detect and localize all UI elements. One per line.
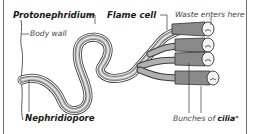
tubule <box>22 30 180 111</box>
flame-cell-3 <box>175 52 214 66</box>
flame-cell-2 <box>175 38 214 52</box>
label-cilia-suffix: * <box>235 114 239 123</box>
label-protonephridium: Protonephridium <box>13 10 95 20</box>
label-cilia-prefix: Bunches of <box>173 114 218 123</box>
label-cilia-bold: cilia <box>218 114 235 123</box>
flame-cells <box>172 22 219 85</box>
label-waste-enters: Waste enters here <box>175 10 245 20</box>
body-wall-line <box>21 20 23 120</box>
label-nephridiopore: Nephridiopore <box>25 113 95 123</box>
flame-cell-1 <box>172 22 214 36</box>
flame-cell-4 <box>175 71 219 85</box>
label-cilia: Bunches of cilia* <box>173 114 239 124</box>
label-body-wall: Body wall <box>30 29 67 39</box>
label-flame-cell: Flame cell <box>107 10 156 20</box>
